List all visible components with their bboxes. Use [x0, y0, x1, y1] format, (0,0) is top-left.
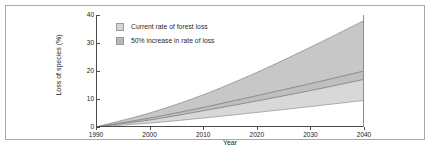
x-axis-label: Year	[96, 139, 364, 146]
x-tick-mark	[150, 127, 151, 130]
legend-item: Current rate of forest loss	[116, 21, 215, 32]
y-axis-label: Loss of species (%)	[55, 34, 62, 95]
y-tick-mark	[97, 15, 100, 16]
plot-area: 010203040 199020002010202020302040 Loss …	[96, 15, 364, 127]
x-tick-mark	[310, 127, 311, 130]
y-tick-mark	[97, 127, 100, 128]
x-tick-label: 1990	[82, 131, 110, 138]
x-tick-mark	[203, 127, 204, 130]
y-tick: 30	[70, 38, 100, 48]
figure-frame: 010203040 199020002010202020302040 Loss …	[5, 5, 425, 140]
y-tick-label: 40	[72, 10, 94, 20]
x-tick-label: 2040	[350, 131, 378, 138]
y-tick: 40	[70, 10, 100, 20]
x-tick-mark	[96, 127, 97, 130]
y-tick: 10	[70, 94, 100, 104]
y-tick-label: 30	[72, 38, 94, 48]
x-tick-mark	[257, 127, 258, 130]
chart-legend: Current rate of forest loss 50% increase…	[116, 21, 215, 49]
legend-label-50-percent-increase: 50% increase in rate of loss	[131, 37, 215, 44]
x-tick-label: 2010	[189, 131, 217, 138]
x-tick-label: 2020	[243, 131, 271, 138]
legend-swatch-current-rate	[116, 23, 124, 31]
legend-swatch-50-percent-increase	[116, 37, 124, 45]
x-tick-label: 2000	[136, 131, 164, 138]
x-tick-label: 2030	[296, 131, 324, 138]
y-tick-mark	[97, 71, 100, 72]
y-tick-mark	[97, 99, 100, 100]
legend-item: 50% increase in rate of loss	[116, 35, 215, 46]
y-tick-mark	[97, 43, 100, 44]
y-tick: 20	[70, 66, 100, 76]
y-tick-label: 20	[72, 66, 94, 76]
y-tick-label: 10	[72, 94, 94, 104]
x-tick-mark	[364, 127, 365, 130]
x-axis-spine	[96, 126, 364, 127]
legend-label-current-rate: Current rate of forest loss	[131, 23, 208, 30]
right-spine	[363, 15, 364, 127]
